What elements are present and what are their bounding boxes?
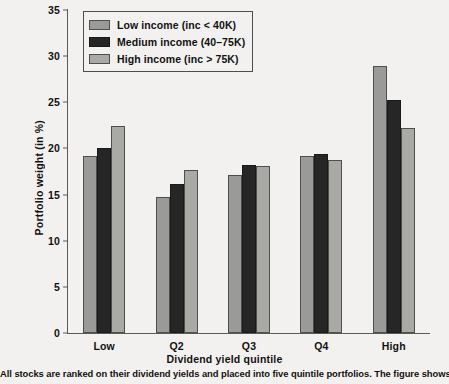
bar: [328, 160, 342, 333]
bar: [256, 166, 270, 333]
x-axis-title: Dividend yield quintile: [0, 353, 449, 365]
figure-caption: All stocks are ranked on their dividend …: [0, 368, 449, 379]
x-axis-line: [67, 333, 430, 334]
bar: [111, 126, 125, 333]
bar: [170, 184, 184, 334]
bar-group: [285, 10, 357, 333]
legend: Low income (inc < 40K)Medium income (40–…: [83, 11, 253, 72]
x-tick-label: Q2: [140, 340, 212, 352]
figure: 05101520253035 LowQ2Q3Q4High Portfolio w…: [0, 0, 449, 384]
bar: [242, 165, 256, 333]
y-tick-label: 0: [54, 328, 60, 339]
legend-label: Medium income (40–75K): [117, 36, 245, 48]
y-tick-label: 35: [48, 5, 60, 16]
legend-swatch: [89, 54, 110, 64]
bar: [97, 148, 111, 333]
bar: [184, 170, 198, 333]
legend-item: Low income (inc < 40K): [89, 16, 245, 33]
bar-group: [358, 10, 430, 333]
legend-item: High income (inc > 75K): [89, 50, 245, 67]
bar: [228, 175, 242, 333]
bar: [300, 156, 314, 333]
bar: [83, 156, 97, 333]
x-tick-label: Q4: [285, 340, 357, 352]
y-tick-label: 25: [48, 97, 60, 108]
x-tick-label: Low: [68, 340, 140, 352]
legend-label: High income (inc > 75K): [117, 53, 239, 65]
legend-item: Medium income (40–75K): [89, 33, 245, 50]
bar: [387, 100, 401, 333]
bar: [373, 66, 387, 333]
bar: [401, 128, 415, 333]
y-tick-label: 10: [48, 235, 60, 246]
bar: [156, 197, 170, 333]
y-axis-title: Portfolio weight (in %): [33, 120, 51, 235]
y-tick-label: 30: [48, 51, 60, 62]
legend-swatch: [89, 20, 110, 30]
bar: [314, 154, 328, 333]
x-tick-label: Q3: [213, 340, 285, 352]
x-tick-label: High: [358, 340, 430, 352]
y-tick-label: 5: [54, 282, 60, 293]
legend-label: Low income (inc < 40K): [117, 19, 236, 31]
legend-swatch: [89, 37, 110, 47]
